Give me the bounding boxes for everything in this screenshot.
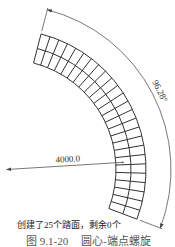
- tread-edge-line: [113, 194, 142, 201]
- radius-dimension-label: 4000.0: [55, 153, 81, 165]
- tread-edge-line: [109, 209, 137, 220]
- tread-edge-line: [116, 164, 146, 165]
- tread-edge-line: [113, 136, 142, 143]
- tread-edge-line: [41, 37, 50, 65]
- outer-stair-edge: [41, 34, 146, 219]
- tread-edge-line: [73, 59, 91, 83]
- tread-edge-line: [89, 78, 112, 98]
- tread-edge-line: [111, 202, 140, 211]
- extension-line-start: [42, 8, 48, 31]
- tread-edge-line: [94, 85, 118, 103]
- spiral-stair-drawing: 4000.0 96.28°: [0, 0, 175, 247]
- stair-band-divider: [37, 48, 131, 213]
- angle-dimension-label: 96.28°: [150, 78, 170, 104]
- tread-edge-line: [79, 65, 99, 87]
- figure-caption-title: 圆心-端点螺旋: [81, 235, 151, 247]
- tread-creation-status: 创建了25个踏面，剩余0个: [17, 220, 121, 230]
- tread-edge-line: [111, 127, 140, 136]
- radius-endpoint-dot: [122, 161, 124, 163]
- tread-edge-line: [98, 93, 123, 109]
- extension-line-end: [140, 220, 162, 229]
- tread-edge-line: [116, 172, 146, 173]
- tread-edge-line: [67, 53, 84, 78]
- figure-caption: 图 9.1-20圆心-端点螺旋: [26, 235, 151, 247]
- tread-edge-line: [34, 34, 42, 63]
- tread-edge-line: [48, 40, 59, 68]
- stair-treads: [34, 34, 146, 219]
- figure-caption-number: 图 9.1-20: [26, 235, 68, 247]
- tread-edge-line: [108, 118, 136, 129]
